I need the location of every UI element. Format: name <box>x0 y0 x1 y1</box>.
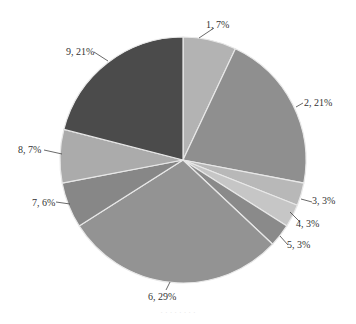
leader-line-3 <box>301 199 312 202</box>
data-label-1: 1, 7% <box>206 19 229 30</box>
leader-line-2 <box>296 103 303 107</box>
data-label-4: 4, 3% <box>296 218 319 229</box>
pie-chart: 1, 7%2, 21%3, 3%4, 3%5, 3%6, 29%7, 6%8, … <box>0 0 356 324</box>
data-label-2: 2, 21% <box>304 97 332 108</box>
leader-line-6 <box>166 282 170 290</box>
data-label-8: 8, 7% <box>18 144 41 155</box>
leader-line-8 <box>44 150 62 154</box>
data-label-5: 5, 3% <box>287 239 310 250</box>
data-label-6: 6, 29% <box>148 291 176 302</box>
data-label-9: 9, 21% <box>66 46 94 57</box>
leader-line-9 <box>94 52 108 61</box>
data-label-3: 3, 3% <box>312 195 335 206</box>
pie-slices <box>60 37 306 283</box>
figure-caption: · · · · · · · · <box>0 308 356 317</box>
data-label-7: 7, 6% <box>32 197 55 208</box>
